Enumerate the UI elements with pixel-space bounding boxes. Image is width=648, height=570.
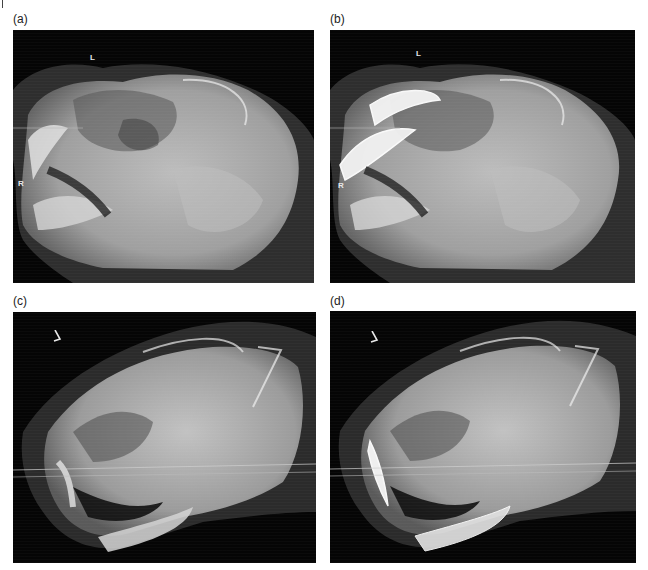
- skull-radiograph-c: [13, 312, 316, 563]
- panel-label-a: (a): [13, 13, 28, 25]
- side-marker-left: L: [90, 54, 95, 62]
- radiograph-panel-c: [13, 312, 316, 563]
- radiograph-panel-d: [330, 311, 636, 563]
- side-marker-left: [370, 331, 379, 343]
- skull-radiograph-b: [330, 30, 635, 283]
- panel-label-b: (b): [330, 13, 345, 25]
- panel-label-d: (d): [330, 295, 345, 307]
- side-marker-right: R: [338, 182, 344, 190]
- page-edge-mark: [2, 0, 3, 8]
- panel-label-c: (c): [13, 295, 27, 307]
- side-marker-right: R: [18, 180, 24, 188]
- side-marker-left: [53, 330, 62, 342]
- radiograph-panel-a: L R: [13, 30, 314, 283]
- skull-radiograph-a: [13, 30, 314, 283]
- radiograph-panel-b: L R: [330, 30, 635, 283]
- skull-radiograph-d: [330, 311, 636, 563]
- side-marker-left: L: [416, 50, 421, 58]
